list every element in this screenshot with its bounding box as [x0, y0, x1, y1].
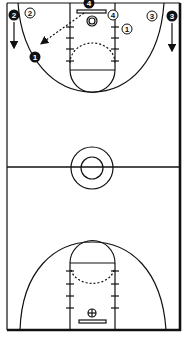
defender-2: 2 [25, 8, 35, 18]
offense-player-4: 4 [84, 0, 95, 9]
svg-text:4: 4 [87, 0, 92, 8]
offense-player-2: 2 [9, 10, 20, 21]
top-free-throw-circle-solid [70, 70, 115, 93]
bottom-lane-hash-marks [66, 271, 119, 308]
defender-3: 3 [147, 11, 157, 21]
svg-text:1: 1 [125, 25, 130, 34]
svg-text:2: 2 [28, 9, 33, 18]
top-lane-hash-marks [66, 27, 119, 61]
bottom-free-throw-circle-dashed [71, 270, 114, 283]
defender-1: 1 [122, 24, 132, 34]
offense-player-3: 3 [167, 11, 178, 22]
center-circle-outer [71, 147, 113, 189]
top-hoop-inner [89, 18, 95, 24]
top-backboard [77, 10, 106, 13]
defender-4: 4 [108, 10, 118, 20]
svg-text:3: 3 [170, 12, 175, 21]
top-free-throw-circle-dashed [70, 43, 115, 63]
svg-text:4: 4 [111, 11, 116, 20]
bottom-backboard [79, 320, 106, 323]
basketball-court-diagram: 1 2 3 4 1 2 3 4 [0, 0, 189, 340]
svg-text:3: 3 [150, 12, 155, 21]
pass-arrow-4-to-1 [42, 13, 84, 43]
offense-player-1: 1 [30, 52, 41, 63]
svg-text:1: 1 [33, 53, 38, 62]
center-circle-inner [81, 157, 103, 179]
svg-text:2: 2 [12, 11, 17, 20]
